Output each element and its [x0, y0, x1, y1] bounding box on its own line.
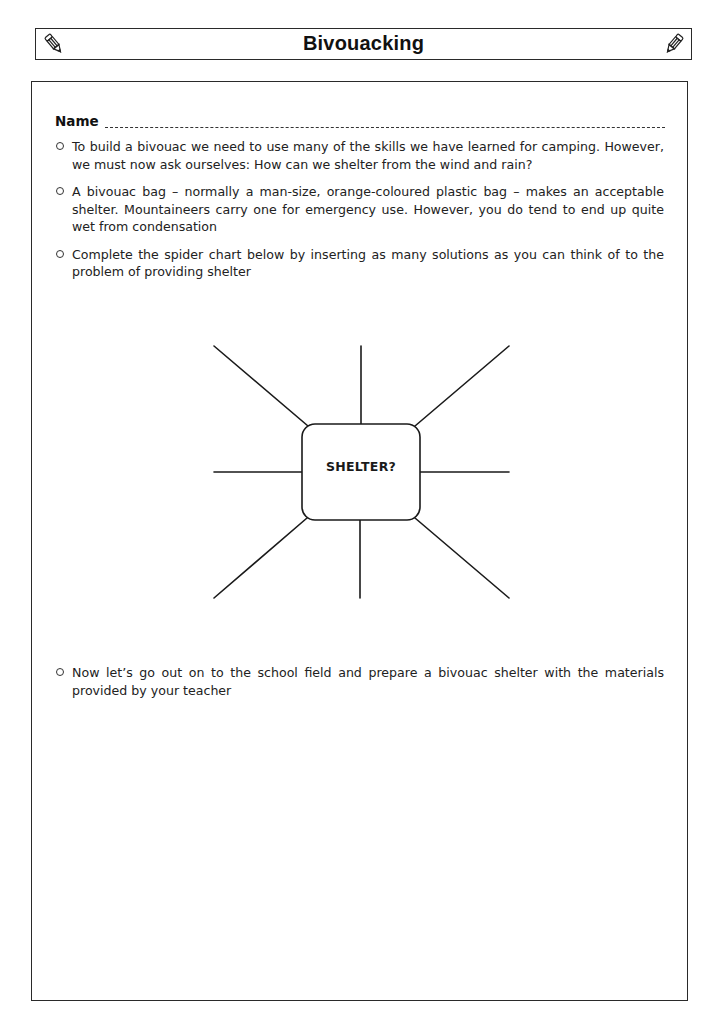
spider-chart: [32, 82, 689, 1002]
instruction-item: Now let’s go out on to the school field …: [54, 664, 664, 699]
spider-center-label: SHELTER?: [302, 459, 420, 474]
title-banner: Bivouacking: [35, 28, 692, 60]
spider-leg: [214, 346, 308, 426]
page-title: Bivouacking: [36, 32, 691, 55]
spider-leg: [415, 518, 509, 598]
spider-leg: [214, 518, 307, 598]
final-instruction: Now let’s go out on to the school field …: [54, 664, 664, 709]
pencil-icon: [663, 32, 685, 56]
circle-bullet-icon: [56, 668, 64, 676]
spider-leg: [415, 346, 509, 426]
worksheet-panel: Name To build a bivouac we need to use m…: [31, 81, 688, 1001]
